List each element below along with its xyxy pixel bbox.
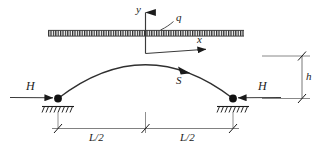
arch-curve <box>58 65 233 99</box>
x-axis-label: x <box>196 33 202 45</box>
span-dimension-line <box>52 112 239 133</box>
arc-length-label: S <box>176 74 182 86</box>
force-right-label: H <box>257 79 268 93</box>
support-left <box>42 95 74 129</box>
support-right <box>217 95 249 129</box>
load-leader-line <box>161 22 174 31</box>
y-axis-label: y <box>135 3 141 15</box>
force-left-label: H <box>25 79 36 93</box>
load-label: q <box>176 11 182 23</box>
span-right-label: L/2 <box>179 131 195 143</box>
span-left-label: L/2 <box>88 131 104 143</box>
rise-label: h <box>306 70 312 82</box>
rise-dimension-line <box>262 52 310 104</box>
diagram-canvas: q y x S <box>0 0 330 145</box>
arch-diagram-figure: q y x S <box>0 0 330 145</box>
x-axis <box>146 49 207 53</box>
